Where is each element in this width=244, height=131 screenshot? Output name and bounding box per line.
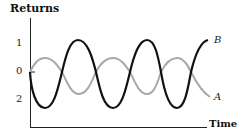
series-a-label: A: [214, 91, 221, 102]
series-b-line: [30, 40, 208, 108]
x-axis-label: Time: [209, 118, 237, 129]
chart-plot: [0, 0, 244, 131]
series-b-label: B: [214, 34, 221, 45]
